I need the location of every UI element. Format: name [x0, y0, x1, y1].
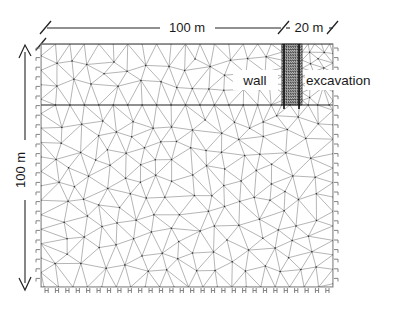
- dim-label-20m: 20 m: [295, 20, 324, 35]
- annotation-excavation: excavation: [305, 70, 388, 90]
- diaphragm-wall: [282, 44, 302, 109]
- dimension-top: 100 m 20 m: [40, 20, 338, 35]
- annotation-wall: wall: [233, 70, 278, 90]
- dimension-left: 100 m: [13, 45, 31, 290]
- dim-label-100m-left: 100 m: [13, 152, 28, 188]
- mesh-diagram: 100 m 20 m 100 m: [0, 0, 398, 310]
- wall-label: wall: [242, 73, 266, 88]
- dim-label-100m-top: 100 m: [169, 20, 205, 35]
- excavation-label: excavation: [306, 73, 371, 88]
- figure-canvas: 100 m 20 m 100 m: [0, 0, 398, 310]
